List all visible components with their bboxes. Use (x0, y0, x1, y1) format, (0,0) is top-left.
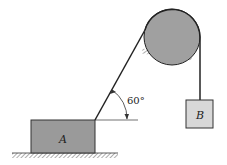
rope-left (95, 30, 145, 120)
ground-hatch (12, 153, 118, 158)
block-b-label: B (195, 109, 204, 122)
angle-label: 60° (127, 95, 145, 106)
block-a-label: A (58, 133, 67, 146)
angle-arrow-icon (125, 114, 130, 120)
pulley-diagram: A 60° B (0, 0, 227, 165)
angle-arc (112, 90, 127, 119)
